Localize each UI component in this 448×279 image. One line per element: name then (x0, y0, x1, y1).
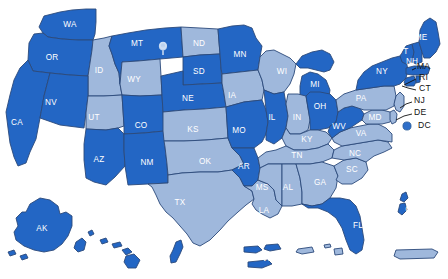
state-label-OH: OH (314, 102, 327, 111)
state-label-VI: VI (262, 254, 270, 263)
leader-DE (396, 114, 412, 120)
state-label-TX: TX (175, 198, 186, 207)
us-map-container: WAORIDMTNDMNWIMISDWYNVCAUTCONEIAILINOHPA… (0, 0, 448, 279)
state-label-PR: PR (409, 260, 421, 269)
state-label-VA: VA (356, 129, 367, 138)
state-label-KS: KS (187, 125, 199, 134)
callout-label-DE: DE (414, 107, 426, 117)
callout-label-MA: MA (417, 61, 430, 71)
state-label-MS: MS (256, 183, 269, 192)
state-label-AS: AS (312, 254, 324, 263)
state-label-NM: NM (140, 158, 153, 167)
state-label-SD: SD (193, 67, 205, 76)
us-map-svg[interactable]: WAORIDMTNDMNWIMISDWYNVCAUTCONEIAILINOHPA… (0, 0, 448, 279)
state-label-MI: MI (310, 80, 320, 89)
state-label-ME: ME (415, 33, 428, 42)
state-label-LA: LA (259, 206, 270, 215)
state-label-MN: MN (233, 50, 246, 59)
state-label-IA: IA (228, 91, 236, 100)
callout-label-DC: DC (418, 120, 431, 130)
state-DE[interactable] (390, 110, 397, 124)
state-label-GA: GA (314, 178, 327, 187)
state-label-FL: FL (353, 221, 363, 230)
state-label-VT: VT (398, 47, 409, 56)
state-label-OK: OK (199, 157, 212, 166)
state-PR[interactable] (394, 249, 438, 259)
state-label-UT: UT (88, 113, 99, 122)
state-label-IN: IN (293, 113, 302, 122)
state-label-AL: AL (283, 183, 294, 192)
state-label-MT: MT (131, 39, 143, 48)
state-label-CA: CA (11, 118, 23, 127)
state-label-ID: ID (95, 66, 104, 75)
state-label-CO: CO (135, 121, 148, 130)
state-GU[interactable] (170, 240, 183, 263)
state-label-WA: WA (63, 20, 77, 29)
state-KS[interactable] (163, 107, 228, 141)
state-label-NY: NY (376, 67, 388, 76)
state-label-KY: KY (301, 135, 313, 144)
callout-label-NJ: NJ (414, 95, 425, 105)
dc-dot-icon (403, 122, 411, 130)
state-label-NE: NE (182, 94, 194, 103)
state-label-WI: WI (277, 67, 287, 76)
state-label-AR: AR (238, 162, 250, 171)
state-label-HI: HI (114, 256, 123, 265)
state-label-WY: WY (127, 75, 141, 84)
callout-label-CT: CT (419, 83, 431, 93)
state-AZ[interactable] (84, 128, 125, 185)
state-label-GU: GU (183, 257, 196, 266)
callout-label-RI: RI (419, 72, 428, 82)
state-label-TN: TN (291, 151, 302, 160)
state-label-SC: SC (346, 165, 358, 174)
state-label-AK: AK (36, 224, 48, 233)
state-label-WV: WV (332, 122, 346, 131)
state-label-AZ: AZ (94, 155, 105, 164)
state-label-NV: NV (45, 98, 57, 107)
leader-CT (402, 86, 416, 90)
state-MO[interactable] (226, 100, 268, 148)
state-label-MD: MD (368, 113, 381, 122)
state-label-NC: NC (349, 149, 361, 158)
state-label-IL: IL (268, 113, 275, 122)
state-label-OR: OR (46, 53, 59, 62)
state-label-ND: ND (193, 39, 205, 48)
state-label-MO: MO (232, 126, 246, 135)
state-label-CNMI: CNMI (405, 205, 427, 214)
state-label-PA: PA (356, 94, 367, 103)
